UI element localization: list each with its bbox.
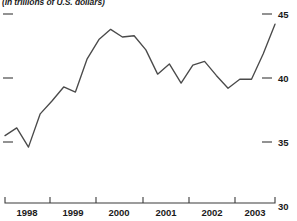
- x-tick-label-1999: 1999: [62, 207, 83, 218]
- x-tick-label-1998: 1998: [16, 207, 37, 218]
- x-axis-ticks: [50, 197, 235, 203]
- data-series-line: [5, 24, 275, 147]
- x-tick-label-2000: 2000: [108, 207, 129, 218]
- x-tick-label-2003: 2003: [244, 207, 265, 218]
- line-chart: (In trillions of U.S. dollars) 45 40 35 …: [0, 0, 297, 221]
- y-axis-right-ticks: [262, 14, 272, 142]
- y-tick-label-30: 30: [278, 201, 289, 212]
- x-tick-label-2001: 2001: [155, 207, 177, 218]
- y-tick-label-35: 35: [278, 137, 289, 148]
- x-tick-label-2002: 2002: [201, 207, 222, 218]
- y-tick-label-40: 40: [278, 73, 289, 84]
- y-axis-left-ticks: [3, 14, 13, 142]
- y-tick-label-45: 45: [278, 9, 289, 20]
- chart-canvas: 45 40 35 30 1998 1999 2000 2001 2002 200…: [0, 0, 297, 221]
